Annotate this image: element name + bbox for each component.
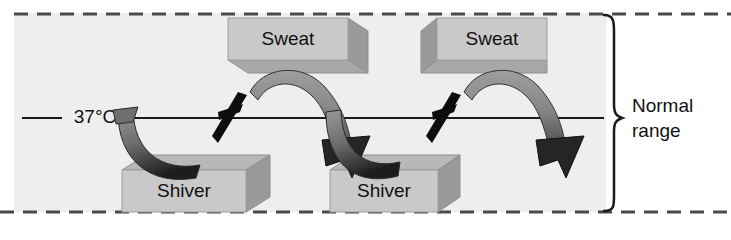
normal-range-brace [604, 15, 622, 211]
normal-range-label-line2: range [632, 120, 681, 141]
thermoregulation-diagram: 37°C Shiver Shiver Sweat Sweat [0, 0, 731, 240]
sweat-box-1: Sweat [228, 18, 368, 73]
shiver-box-2-label: Shiver [357, 180, 412, 201]
normal-range-label-line1: Normal [632, 95, 693, 116]
shiver-box-1-label: Shiver [157, 180, 212, 201]
setpoint-label: 37°C [74, 106, 116, 127]
sweat-box-2: Sweat [421, 18, 547, 73]
sweat-box-2-label: Sweat [466, 28, 520, 49]
sweat-box-1-label: Sweat [262, 28, 316, 49]
sweat-box-2-bottom [421, 60, 547, 73]
